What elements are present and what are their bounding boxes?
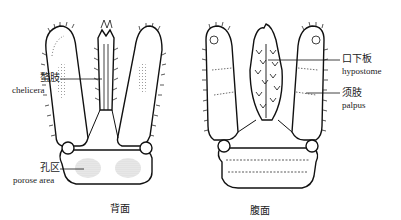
palpus-label-en: palpus <box>342 101 366 110</box>
porose-area-label-zh: 孔区 <box>40 163 60 173</box>
dorsal-caption: 背面 <box>110 200 130 215</box>
palpus-label-zh: 须肢 <box>342 88 362 98</box>
tick-capitulum-diagram: 螯肢 chelicera 孔区 porose area 口下板 hypostom… <box>0 0 401 220</box>
chelicera-label-zh: 螯肢 <box>40 73 60 83</box>
chelicera-label-en: chelicera <box>12 86 44 95</box>
diagram-drawings <box>0 0 401 220</box>
porose-area-label-en: porose area <box>13 176 54 185</box>
hypostome-label-zh: 口下板 <box>342 54 372 64</box>
ventral-view-drawing <box>202 22 328 188</box>
ventral-caption: 腹面 <box>250 202 270 217</box>
dorsal-view-drawing <box>41 20 166 184</box>
hypostome-label-en: hypostome <box>342 67 382 76</box>
